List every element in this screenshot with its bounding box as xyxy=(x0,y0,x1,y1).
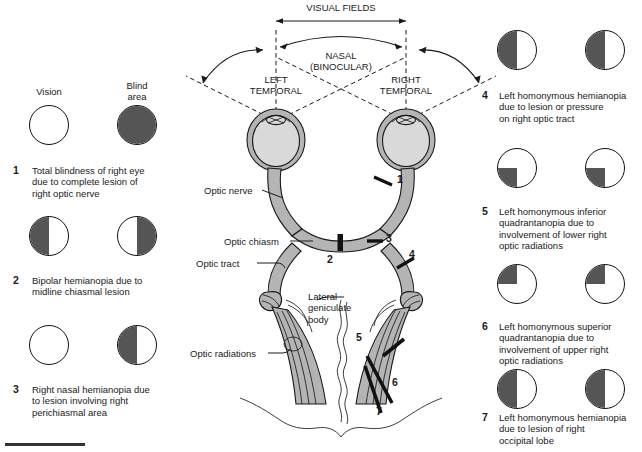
lesion-marker-2 xyxy=(338,234,344,251)
occipital-lobe-outline xyxy=(240,398,442,437)
marker-number-5: 5 xyxy=(356,332,362,343)
defect-4-description: Left homonymous hemianopia due to lesion… xyxy=(499,90,642,124)
defect-5-right-eye-circle xyxy=(585,148,625,188)
blind-fill xyxy=(586,265,605,284)
blind-fill xyxy=(586,370,605,408)
blind-fill xyxy=(498,168,517,187)
defect-7-description: Left homonymous hemianopia due to lesion… xyxy=(499,412,642,446)
defect-5-left-eye-circle xyxy=(497,148,537,188)
nasal-binocular-label: NASAL (BINOCULAR) xyxy=(296,50,386,72)
defect-2-number: 2 xyxy=(13,275,19,286)
defect-6-description: Left homonymous superior quadrantanopia … xyxy=(499,321,642,367)
defect-2-description: Bipolar hemianopia due to midline chiasm… xyxy=(32,275,192,298)
defect-2-right-eye-circle xyxy=(117,216,157,256)
defect-6-number: 6 xyxy=(482,321,488,332)
footer-rule xyxy=(5,443,85,446)
defect-7-right-eye-circle xyxy=(585,369,625,409)
marker-number-4: 4 xyxy=(409,249,415,260)
optic-chiasm-label: Optic chiasm xyxy=(224,236,279,247)
defect-3-right-eye-circle xyxy=(117,325,157,365)
defect-3-left-eye-circle xyxy=(29,325,69,365)
lesion-marker-1 xyxy=(374,177,392,185)
left-optic-tract xyxy=(268,243,301,296)
marker-number-1: 1 xyxy=(397,174,403,185)
visual-fields-title: VISUAL FIELDS xyxy=(291,2,391,13)
defect-1-number: 1 xyxy=(13,165,19,176)
defect-4-left-eye-circle xyxy=(497,30,537,70)
marker-number-7: 7 xyxy=(376,406,382,417)
defect-6-left-eye-circle xyxy=(497,264,537,304)
marker-number-2: 2 xyxy=(327,254,333,265)
key-blind-area-label: Blind area xyxy=(104,80,170,102)
defect-2-left-eye-circle xyxy=(29,216,69,256)
defect-1-description: Total blindness of right eye due to comp… xyxy=(32,165,192,199)
defect-3-number: 3 xyxy=(13,384,19,395)
blind-fill xyxy=(498,370,517,408)
defect-6-right-eye-circle xyxy=(585,264,625,304)
defect-5-number: 5 xyxy=(482,206,488,217)
blind-fill xyxy=(118,326,137,364)
optic-tract-label: Optic tract xyxy=(196,258,239,269)
right-temporal-label: RIGHT TEMPORAL xyxy=(366,74,446,96)
blind-fill xyxy=(498,31,517,69)
blind-fill xyxy=(118,106,156,144)
defect-7-left-eye-circle xyxy=(497,369,537,409)
nasal-binocular-arc-arrow xyxy=(280,37,402,50)
defect-7-number: 7 xyxy=(482,412,488,423)
blind-fill xyxy=(30,217,49,255)
defect-4-number: 4 xyxy=(482,90,488,101)
optic-nerve-label: Optic nerve xyxy=(204,185,253,196)
lateral-geniculate-body-label: Lateral geniculate body xyxy=(308,291,368,325)
defect-4-right-eye-circle xyxy=(585,30,625,70)
left-eye-globe xyxy=(247,109,305,171)
defect-3-description: Right nasal hemianopia due to lesion inv… xyxy=(32,384,192,418)
marker-number-6: 6 xyxy=(392,377,398,388)
key-vision-label: Vision xyxy=(16,86,82,97)
right-eye-globe xyxy=(377,109,435,171)
defect-5-description: Left homonymous inferior quadrantanopia … xyxy=(499,206,642,252)
key-vision-circle xyxy=(29,105,69,145)
left-optic-nerve xyxy=(268,168,302,236)
blind-fill xyxy=(137,217,156,255)
visual-fields-extent-arrow xyxy=(276,18,406,24)
optic-radiations-label: Optic radiations xyxy=(190,348,256,359)
key-blind-circle xyxy=(117,105,157,145)
blind-fill xyxy=(586,31,605,69)
marker-number-3: 3 xyxy=(386,233,392,244)
blind-fill xyxy=(498,265,517,284)
blind-fill xyxy=(586,168,605,187)
left-temporal-label: LEFT TEMPORAL xyxy=(236,74,316,96)
